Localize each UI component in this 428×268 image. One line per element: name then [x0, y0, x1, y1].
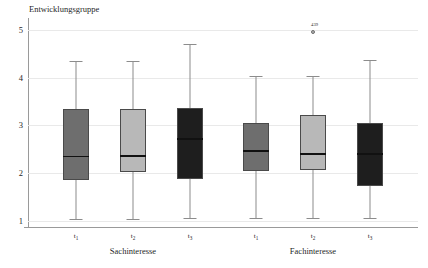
whisker-upper: [313, 76, 314, 115]
x-axis-tick-label: t2: [131, 232, 136, 241]
x-axis-tick-label: t1: [74, 232, 79, 241]
whisker-cap-lower: [70, 219, 83, 220]
whisker-cap-lower: [307, 218, 320, 219]
median-line: [120, 155, 146, 157]
whisker-cap-upper: [250, 76, 263, 77]
boxplot-box: [236, 18, 276, 228]
whisker-cap-upper: [184, 44, 197, 45]
whisker-lower: [313, 170, 314, 218]
boxplot-box: 439: [293, 18, 333, 228]
iqr-box: [177, 108, 203, 179]
boxplot-box: [350, 18, 390, 228]
whisker-upper: [370, 60, 371, 123]
y-axis-tick-label: 1: [19, 216, 23, 226]
plot-area: 12345 439 t1t2t3t1t2t3 SachinteresseFach…: [28, 18, 418, 228]
boxplot-box: [56, 18, 96, 228]
boxplot-figure: Entwicklungsgruppe 12345 439 t1t2t3t1t2t…: [0, 0, 428, 268]
outlier-point: [311, 30, 315, 34]
x-axis-tick-label: t1: [254, 232, 259, 241]
whisker-cap-lower: [127, 219, 140, 220]
y-axis-tick-label: 3: [19, 120, 23, 130]
whisker-lower: [190, 179, 191, 218]
whisker-cap-lower: [364, 218, 377, 219]
y-axis-tick-label: 5: [19, 25, 23, 35]
y-axis-line: [28, 18, 29, 228]
whisker-cap-upper: [364, 60, 377, 61]
plot-title: Entwicklungsgruppe: [29, 4, 99, 14]
whisker-cap-upper: [307, 76, 320, 77]
x-axis-tick-label: t2: [311, 232, 316, 241]
median-line: [357, 153, 383, 155]
iqr-box: [63, 109, 89, 181]
boxplot-box: [113, 18, 153, 228]
median-line: [243, 150, 269, 152]
y-axis-tick-label: 2: [19, 168, 23, 178]
whisker-cap-upper: [127, 61, 140, 62]
iqr-box: [120, 109, 146, 172]
group-axis-label: Sachinteresse: [110, 246, 156, 256]
whisker-cap-lower: [250, 218, 263, 219]
outlier-label: 439: [311, 22, 318, 27]
x-axis-tick-label: t3: [188, 232, 193, 241]
whisker-cap-upper: [70, 61, 83, 62]
whisker-upper: [190, 44, 191, 108]
median-line: [300, 153, 326, 155]
y-axis-tick-label: 4: [19, 73, 23, 83]
x-axis-tick-label: t3: [368, 232, 373, 241]
iqr-box: [300, 115, 326, 170]
median-line: [63, 156, 89, 158]
whisker-upper: [76, 61, 77, 109]
whisker-lower: [133, 172, 134, 220]
median-line: [177, 138, 203, 140]
iqr-box: [243, 123, 269, 171]
whisker-lower: [370, 186, 371, 218]
group-axis-label: Fachinteresse: [290, 246, 336, 256]
whisker-cap-lower: [184, 218, 197, 219]
boxplot-box: [170, 18, 210, 228]
whisker-upper: [256, 76, 257, 123]
whisker-lower: [256, 171, 257, 219]
whisker-lower: [76, 180, 77, 219]
whisker-upper: [133, 61, 134, 109]
